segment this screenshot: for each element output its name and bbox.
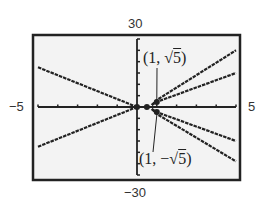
ymax-label: 30 (128, 16, 142, 31)
xmax-label: 5 (248, 99, 255, 114)
point-label-positive: (1, √5) (143, 49, 186, 67)
point-marker (154, 99, 160, 105)
point-marker (134, 104, 140, 110)
ymin-label: −30 (124, 185, 146, 200)
point-marker (154, 109, 160, 115)
point-label-negative: (1, −√5) (139, 150, 191, 168)
calculator-graph (0, 0, 269, 207)
point-marker (144, 104, 150, 110)
xmin-label: −5 (9, 99, 24, 114)
